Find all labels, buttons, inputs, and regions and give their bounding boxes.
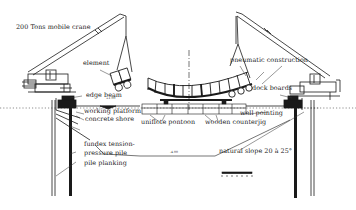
label-pile-planking: pile planking	[84, 160, 127, 166]
level-mark-upper: +1.00	[106, 97, 115, 100]
label-pneumatic-construction: pneumatic construction	[230, 57, 308, 63]
element-left	[110, 68, 133, 92]
label-crane: 200 Tons mobile crane	[16, 24, 91, 30]
label-edge-beam: edge beam	[86, 92, 122, 98]
pneumatic-arch	[148, 72, 252, 97]
level-mark-lower: -4.00	[170, 151, 178, 154]
label-concrete-shore: concrete shore	[85, 116, 134, 122]
label-uniflote-pontoon: uniflote pontoon	[141, 119, 195, 125]
label-well-pointing: well pointing	[240, 110, 283, 116]
label-working-platform: working platform	[84, 108, 141, 114]
label-element: element	[83, 60, 109, 66]
scale-bar-icon	[222, 172, 252, 177]
uniflote-pontoon	[142, 100, 246, 114]
label-fundex-line2: pressure pile	[84, 150, 127, 156]
label-natural-slope: natural slope 20 à 25°	[219, 148, 292, 154]
construction-diagram: 200 Tons mobile crane element edge beam …	[0, 0, 356, 210]
label-wooden-counterjig: wooden counterjig	[205, 119, 266, 125]
label-fundex-line1: fundex tension-	[84, 141, 135, 147]
label-dock-boards: dock boards	[252, 85, 292, 91]
diagram-drawing	[0, 0, 356, 210]
